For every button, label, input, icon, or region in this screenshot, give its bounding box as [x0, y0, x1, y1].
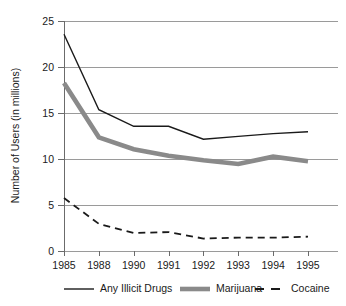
line-chart: 0510152025 19851988199019911992199319941… [0, 0, 346, 306]
axis-lines [58, 21, 309, 256]
y-axis-tick-labels: 0510152025 [42, 15, 54, 257]
y-tick-label-15: 15 [42, 107, 54, 119]
legend-label-cocaine: Cocaine [291, 282, 330, 294]
y-axis-title: Number of Users (in millions) [9, 68, 21, 203]
legend-label-any-illicit-drugs: Any Illicit Drugs [100, 282, 172, 294]
y-tick-label-0: 0 [48, 245, 54, 257]
legend-label-marijuana: Marijuana [216, 282, 262, 294]
y-tick-label-20: 20 [42, 61, 54, 73]
x-tick-label-1993: 1993 [227, 259, 251, 271]
chart-canvas: 0510152025 19851988199019911992199319941… [0, 0, 346, 306]
gridlines [64, 22, 338, 252]
chart-legend: Any Illicit DrugsMarijuanaCocaine [64, 282, 330, 294]
y-tick-label-5: 5 [48, 199, 54, 211]
series-line-marijuana [64, 83, 308, 164]
x-tick-label-1985: 1985 [52, 259, 76, 271]
y-axis-title-text: Number of Users (in millions) [9, 68, 21, 203]
x-tick-label-1988: 1988 [87, 259, 111, 271]
series-line-any-illicit-drugs [64, 34, 308, 139]
x-tick-label-1990: 1990 [122, 259, 146, 271]
x-axis-tick-labels: 19851988199019911992199319941995 [52, 259, 320, 271]
series-line-cocaine [64, 198, 308, 238]
y-tick-label-10: 10 [42, 153, 54, 165]
y-tick-label-25: 25 [42, 15, 54, 27]
x-tick-label-1994: 1994 [261, 259, 285, 271]
x-tick-label-1992: 1992 [192, 259, 216, 271]
x-tick-label-1995: 1995 [296, 259, 320, 271]
data-series [64, 34, 308, 238]
x-tick-label-1991: 1991 [157, 259, 181, 271]
